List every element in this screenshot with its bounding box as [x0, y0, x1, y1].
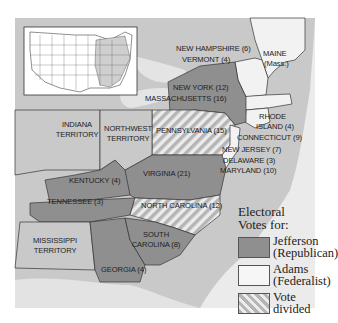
legend-item-jefferson: Jefferson (Republican): [238, 235, 330, 259]
label-new-york: NEW YORK (12): [173, 83, 229, 92]
label-south-carolina-1: SOUTH: [131, 230, 181, 239]
label-northwest-1: NORTHWEST: [103, 124, 153, 133]
divided-swatch: [238, 293, 270, 314]
label-northwest-2: TERRITORY: [103, 134, 153, 143]
legend-jefferson-line-2: (Republican): [273, 247, 338, 259]
jefferson-swatch: [238, 237, 270, 258]
label-maryland: MARYLAND (10): [220, 166, 276, 175]
legend-item-divided: Vote divided: [238, 291, 330, 315]
label-massachusetts: MASSACHUSETTS (16): [145, 94, 226, 103]
label-virginia: VIRGINIA (21): [143, 169, 190, 178]
label-north-carolina: NORTH CAROLINA (12): [141, 201, 222, 210]
label-south-carolina-2: CAROLINA (8): [131, 240, 181, 249]
legend-title-line-2: Votes for:: [238, 218, 330, 231]
adams-swatch: [238, 265, 270, 286]
label-indiana-1: INDIANA: [52, 120, 102, 129]
label-vermont: VERMONT (4): [182, 55, 230, 64]
label-tennessee: TENNESSEE (3): [47, 197, 103, 206]
label-mississippi-2: TERRITORY: [25, 246, 85, 255]
label-new-jersey: NEW JERSEY (7): [222, 145, 281, 154]
legend-divided-line-2: divided: [273, 303, 311, 315]
label-maine-1: MAINE: [263, 49, 287, 58]
label-delaware: DELAWARE (3): [223, 156, 275, 165]
label-georgia: GEORGIA (4): [101, 265, 146, 274]
legend-item-adams: Adams (Federalist): [238, 263, 330, 287]
label-indiana-2: TERRITORY: [52, 130, 102, 139]
label-rhode-island-2: ISLAND (4): [256, 122, 294, 131]
legend-adams-line-2: (Federalist): [273, 275, 331, 287]
label-kentucky: KENTUCKY (4): [69, 176, 120, 185]
label-maine-2: (Mass.): [264, 59, 289, 68]
us-inset-map: [24, 27, 137, 95]
legend: Electoral Votes for: Jefferson (Republic…: [238, 205, 330, 315]
label-connecticut: CONNECTICUT (9): [237, 133, 302, 142]
label-new-hampshire: NEW HAMPSHIRE (6): [176, 44, 251, 53]
label-rhode-island-1: RHODE: [259, 112, 286, 121]
label-pennsylvania: PENNSYLVANIA (15): [156, 126, 227, 135]
label-mississippi-1: MISSISSIPPI: [25, 236, 85, 245]
